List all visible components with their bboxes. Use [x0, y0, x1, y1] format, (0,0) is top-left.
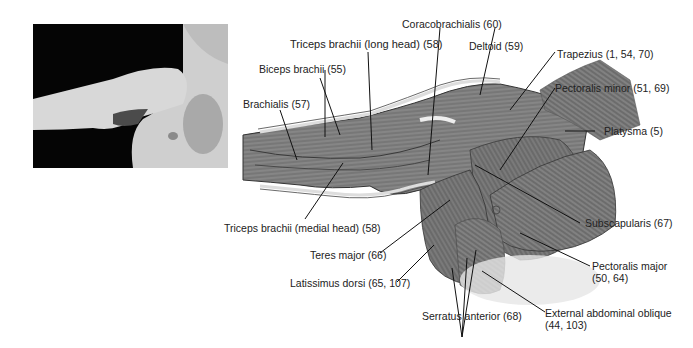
label-pectoralis-major-refs: (50, 64)	[592, 272, 628, 284]
label-external-abdominal-oblique-refs: (44, 103)	[545, 319, 587, 331]
label-pectoralis-major: Pectoralis major	[592, 260, 667, 272]
label-serratus-anterior: Serratus anterior (68)	[422, 310, 522, 322]
label-triceps-long-head: Triceps brachii (long head) (58)	[290, 38, 442, 50]
label-external-abdominal-oblique: External abdominal oblique	[545, 307, 672, 319]
label-subscapularis: Subscapularis (67)	[585, 217, 673, 229]
label-triceps-medial-head: Triceps brachii (medial head) (58)	[224, 222, 381, 234]
label-latissimus-dorsi: Latissimus dorsi (65, 107)	[290, 277, 410, 289]
label-coracobrachialis: Coracobrachialis (60)	[402, 18, 502, 30]
label-deltoid: Deltoid (59)	[469, 40, 523, 52]
label-brachialis: Brachialis (57)	[243, 98, 310, 110]
label-platysma: Platysma (5)	[604, 125, 663, 137]
label-trapezius: Trapezius (1, 54, 70)	[557, 48, 654, 60]
label-biceps-brachii: Biceps brachii (55)	[259, 63, 346, 75]
label-teres-major: Teres major (66)	[310, 249, 386, 261]
label-pectoralis-minor: Pectoralis minor (51, 69)	[555, 82, 669, 94]
